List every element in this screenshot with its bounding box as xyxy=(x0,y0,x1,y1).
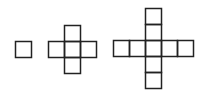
unit-square xyxy=(146,25,162,41)
unit-square xyxy=(65,26,81,42)
diagram-canvas xyxy=(0,0,198,95)
figure-2 xyxy=(49,26,97,74)
unit-square xyxy=(65,58,81,74)
unit-square xyxy=(114,41,130,57)
unit-square xyxy=(81,42,97,58)
unit-square xyxy=(65,42,81,58)
unit-square xyxy=(146,41,162,57)
unit-square xyxy=(16,42,32,58)
unit-square xyxy=(146,9,162,25)
unit-square xyxy=(49,42,65,58)
figure-3 xyxy=(114,9,194,89)
figure-1 xyxy=(16,42,32,58)
unit-square xyxy=(130,41,146,57)
unit-square xyxy=(178,41,194,57)
unit-square xyxy=(146,57,162,73)
unit-square xyxy=(162,41,178,57)
unit-square xyxy=(146,73,162,89)
